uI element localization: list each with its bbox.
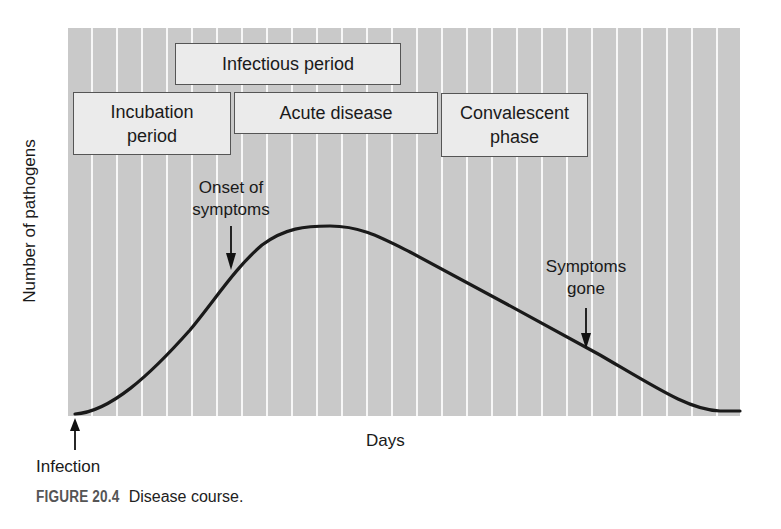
gone-line-1: Symptoms xyxy=(526,256,646,278)
figure-caption-text: Disease course. xyxy=(129,488,244,505)
pathogen-curve xyxy=(75,226,740,414)
figure-caption: FIGURE 20.4 Disease course. xyxy=(36,488,243,506)
symptoms-gone-label: Symptoms gone xyxy=(526,256,646,300)
onset-line-2: symptoms xyxy=(176,199,286,221)
symptoms-gone-arrow-icon xyxy=(581,308,591,349)
onset-of-symptoms-label: Onset of symptoms xyxy=(176,177,286,221)
infection-label: Infection xyxy=(36,456,100,478)
onset-arrow-icon xyxy=(226,226,236,270)
gone-line-2: gone xyxy=(526,278,646,300)
y-axis-label: Number of pathogens xyxy=(20,139,40,303)
infection-arrow-icon xyxy=(70,418,80,450)
x-axis-label: Days xyxy=(366,430,405,452)
figure-number: FIGURE 20.4 xyxy=(36,488,119,506)
onset-line-1: Onset of xyxy=(176,177,286,199)
